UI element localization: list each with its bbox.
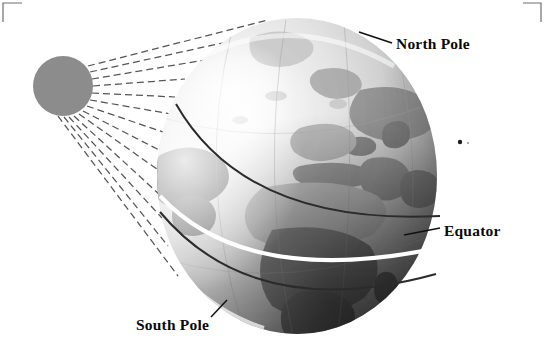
diagram-canvas: North Pole Equator South Pole — [0, 0, 545, 362]
sun-ray — [93, 79, 185, 86]
sun-ray — [64, 117, 168, 246]
earth-sun-diagram: North Pole Equator South Pole — [0, 0, 545, 362]
sun-ray — [90, 100, 171, 114]
crop-mark-top-left — [3, 3, 22, 22]
print-speck — [458, 140, 469, 144]
crop-mark-top-right — [523, 3, 541, 22]
sun-ray — [92, 60, 205, 79]
label-equator: Equator — [444, 222, 501, 239]
label-south-pole: South Pole — [136, 316, 209, 333]
sun-ray — [79, 114, 161, 172]
earth-globe — [149, 10, 450, 350]
sun-icon — [33, 56, 93, 116]
sun-ray — [92, 93, 175, 97]
label-north-pole: North Pole — [396, 35, 470, 52]
sun-ray — [69, 117, 162, 218]
